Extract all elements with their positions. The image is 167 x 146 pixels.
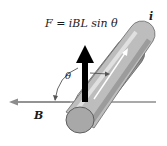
conductor-end-cap xyxy=(66,107,94,133)
force-formula: F = iBL sin θ xyxy=(45,17,118,30)
field-label: B xyxy=(34,109,43,122)
angle-label: θ xyxy=(65,70,71,81)
angle-arc-arrowhead-icon xyxy=(53,95,58,101)
current-label: i xyxy=(149,10,153,23)
force-arrow-head-icon xyxy=(76,45,94,63)
